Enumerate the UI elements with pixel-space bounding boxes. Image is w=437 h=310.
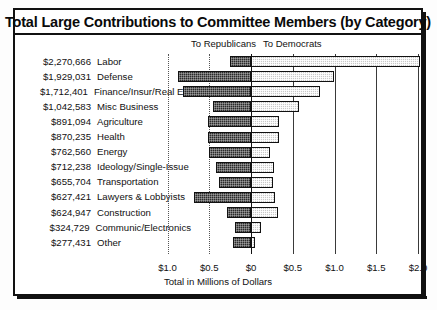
bar-republicans-8 [219,177,251,188]
chart-screenshot: Total Large Contributions to Committee M… [0,0,437,310]
x-tick-label: $0 [246,262,257,273]
legend-label-democrats: To Democrats [263,38,322,49]
bar-democrats-10 [251,207,278,218]
legend-label-republicans: To Republicans [191,38,256,49]
bar-republicans-5 [208,132,251,143]
x-tick-label: $2.0 [409,262,428,273]
page-title: Total Large Contributions to Committee M… [5,14,431,30]
plot-area [15,54,421,254]
bar-republicans-1 [178,71,251,82]
x-tick-label: $1.0 [158,262,177,273]
gridline-1.0-right [335,54,336,254]
bar-democrats-3 [251,101,299,112]
x-tick-label: $0.5 [283,262,302,273]
bar-democrats-8 [251,177,273,188]
gridline-1.0-left [168,54,169,254]
bar-republicans-4 [208,116,251,127]
bar-republicans-12 [233,237,251,248]
bar-democrats-7 [251,162,274,173]
legend: To Republicans To Democrats [15,38,421,52]
x-axis: Total in Millions of Dollars $1.0$0.5$0$… [15,254,421,294]
chart-frame: Total Large Contributions to Committee M… [13,8,423,296]
title-bar: Total Large Contributions to Committee M… [15,10,421,35]
bar-republicans-0 [230,56,251,67]
bar-democrats-1 [251,71,334,82]
bar-republicans-9 [194,192,251,203]
x-tick-label: $0.5 [200,262,219,273]
gridline-0.5-right [293,54,294,254]
x-tick-label: $1.5 [367,262,386,273]
x-tick-label: $1.0 [325,262,344,273]
bar-republicans-3 [213,101,251,112]
bar-democrats-2 [251,86,320,97]
x-axis-title: Total in Millions of Dollars [15,276,421,287]
bar-democrats-0 [251,56,420,67]
bar-democrats-12 [251,237,255,248]
frame-shadow-bottom [17,296,427,299]
bar-democrats-9 [251,192,275,203]
gridline-1.5-right [376,54,377,254]
bar-republicans-2 [183,86,251,97]
bar-republicans-6 [209,147,251,158]
bar-republicans-7 [216,162,251,173]
bar-democrats-4 [251,116,279,127]
bar-democrats-6 [251,147,270,158]
bar-democrats-11 [251,222,261,233]
bar-republicans-11 [235,222,251,233]
frame-shadow-right [423,12,426,299]
gridline-2.0-right [418,54,419,254]
bar-republicans-10 [227,207,251,218]
bar-democrats-5 [251,132,279,143]
